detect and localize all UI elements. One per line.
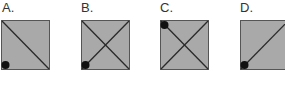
option-b[interactable]: B. [79, 0, 139, 87]
dot-icon [241, 61, 249, 69]
square-figure-c [160, 20, 209, 70]
dot-icon [82, 61, 90, 69]
option-d-label: D. [240, 1, 253, 15]
dot-icon [2, 61, 10, 69]
square-figure-d [240, 20, 285, 70]
option-a-label: A. [2, 1, 14, 15]
option-d[interactable]: D. [237, 0, 285, 87]
option-a[interactable]: A. [0, 0, 60, 87]
square-figure-b [81, 20, 130, 70]
option-b-label: B. [81, 1, 93, 15]
option-c[interactable]: C. [158, 0, 218, 87]
square-figure-a [1, 20, 50, 70]
dot-icon [161, 21, 169, 29]
option-c-label: C. [160, 1, 173, 15]
